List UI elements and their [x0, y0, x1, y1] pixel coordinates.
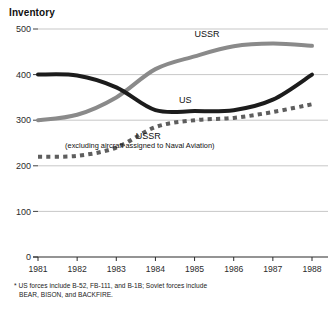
y-tick-label-400: 400 — [16, 70, 31, 80]
y-tick-label-300: 300 — [16, 115, 31, 125]
x-tick-label-1984: 1984 — [146, 264, 165, 274]
inventory-chart-figure: Inventory 0100200300400500 1981198219831… — [0, 0, 329, 312]
annotation-label-3: (excluding aircraft assigned to Naval Av… — [65, 141, 214, 150]
y-tick-label-200: 200 — [16, 161, 31, 171]
y-tick-label-0: 0 — [26, 252, 31, 262]
x-tick-label-1985: 1985 — [185, 264, 204, 274]
annotation-label-1: US — [179, 95, 192, 105]
footnote-text-line-1: US forces include B-52, FB-111, and B-1B… — [18, 282, 207, 289]
series-line-us — [38, 74, 312, 112]
y-axis-tick-labels: 0100200300400500 — [16, 24, 31, 262]
footnote-marker: * — [14, 282, 17, 289]
x-tick-label-1983: 1983 — [107, 264, 126, 274]
x-axis-tick-labels: 19811982198319841985198619871988 — [28, 264, 321, 274]
series-line-ussr — [38, 44, 312, 121]
x-tick-label-1982: 1982 — [68, 264, 87, 274]
y-tick-label-100: 100 — [16, 207, 31, 217]
y-tick-label-500: 500 — [16, 24, 31, 34]
series-annotation-labels: USSRUSUSSR(excluding aircraft assigned t… — [65, 29, 220, 149]
x-tick-label-1988: 1988 — [302, 264, 321, 274]
footnote-text-line-2: BEAR, BISON, and BACKFIRE. — [14, 290, 314, 299]
x-tick-label-1987: 1987 — [263, 264, 282, 274]
x-tick-label-1986: 1986 — [224, 264, 243, 274]
x-tick-label-1981: 1981 — [28, 264, 47, 274]
annotation-label-0: USSR — [195, 29, 221, 39]
chart-plot-area: 0100200300400500 19811982198319841985198… — [0, 0, 329, 312]
chart-footnote: * US forces include B-52, FB-111, and B-… — [14, 281, 314, 300]
